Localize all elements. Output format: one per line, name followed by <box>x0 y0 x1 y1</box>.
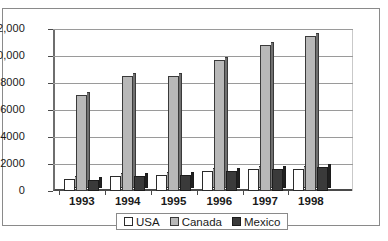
y-axis-tick-mark <box>48 164 53 165</box>
y-axis-tick-label: 8000 <box>0 76 25 88</box>
bar-front-face <box>293 169 304 191</box>
bar-side-face <box>316 33 319 188</box>
bar-front-face <box>248 169 259 191</box>
bar-side-face <box>133 73 136 188</box>
bar-front-face <box>64 179 75 191</box>
x-axis-tick-mark <box>243 191 244 195</box>
bar-side-face <box>225 57 228 188</box>
legend-item-usa[interactable]: USA <box>124 216 160 228</box>
legend-label: Canada <box>182 216 222 228</box>
bar-front-face <box>122 76 133 191</box>
x-axis-tick-mark <box>59 191 60 195</box>
mexico-swatch-icon <box>232 217 241 226</box>
y-axis-tick-mark <box>48 56 53 57</box>
x-axis-tick-label: 1996 <box>196 195 243 207</box>
bar-front-face <box>214 60 225 191</box>
bar-front-face <box>180 175 191 191</box>
y-axis-tick-mark <box>48 29 53 30</box>
legend-item-canada[interactable]: Canada <box>170 216 222 228</box>
y-axis-tick-mark <box>48 137 53 138</box>
x-axis-tick-label: 1995 <box>150 195 197 207</box>
bar-mexico-1995 <box>180 175 191 191</box>
bar-front-face <box>156 175 167 191</box>
y-axis-tick-mark <box>48 110 53 111</box>
bar-front-face <box>76 95 87 191</box>
bar-side-face <box>237 168 240 188</box>
bar-side-face <box>145 173 148 188</box>
y-axis-tick-mark <box>48 191 53 192</box>
chart-frame: 0200040006000800010,00012,000 1993199419… <box>2 8 380 226</box>
y-axis-tick-label: 6000 <box>0 103 25 115</box>
bar-cluster <box>156 29 191 191</box>
bar-canada-1994 <box>122 76 133 191</box>
bar-side-face <box>99 177 102 188</box>
x-axis-tick-label: 1998 <box>287 195 334 207</box>
bar-cluster <box>110 29 145 191</box>
bar-front-face <box>305 36 316 191</box>
bar-usa-1993 <box>64 179 75 191</box>
y-axis-tick-label: 2000 <box>0 157 25 169</box>
chart-legend: USACanadaMexico <box>116 213 288 230</box>
bar-mexico-1996 <box>226 171 237 191</box>
bar-front-face <box>317 167 328 191</box>
bar-front-face <box>260 45 271 191</box>
bar-canada-1995 <box>168 76 179 191</box>
bar-cluster <box>202 29 237 191</box>
bar-mexico-1993 <box>88 180 99 191</box>
y-axis-tick-label: 4000 <box>0 130 25 142</box>
canada-swatch-icon <box>170 217 179 226</box>
bar-front-face <box>202 171 213 191</box>
bar-cluster <box>64 29 99 191</box>
bar-canada-1993 <box>76 95 87 191</box>
bar-front-face <box>272 169 283 191</box>
y-axis-tick-mark <box>48 83 53 84</box>
y-axis-tick-label: 12,000 <box>0 22 25 34</box>
bar-front-face <box>88 180 99 191</box>
bar-usa-1995 <box>156 175 167 191</box>
bar-cluster <box>248 29 283 191</box>
plot-area <box>53 29 353 191</box>
x-axis-tick-mark <box>151 191 152 195</box>
bar-side-face <box>87 92 90 188</box>
bar-chart: 0200040006000800010,00012,000 1993199419… <box>0 0 388 241</box>
y-axis-tick-label: 10,000 <box>0 49 25 61</box>
bar-front-face <box>134 176 145 191</box>
bar-front-face <box>168 76 179 191</box>
bar-side-face <box>328 164 331 188</box>
bar-side-face <box>191 172 194 188</box>
x-axis-tick-label: 1993 <box>58 195 105 207</box>
usa-swatch-icon <box>124 217 133 226</box>
x-axis-tick-label: 1994 <box>104 195 151 207</box>
bar-usa-1994 <box>110 176 121 191</box>
bar-canada-1996 <box>214 60 225 191</box>
bar-side-face <box>271 42 274 188</box>
bar-usa-1998 <box>293 169 304 191</box>
bar-front-face <box>110 176 121 191</box>
bar-side-face <box>283 166 286 188</box>
x-axis-tick-mark <box>105 191 106 195</box>
legend-label: USA <box>136 216 160 228</box>
bar-front-face <box>226 171 237 191</box>
bar-mexico-1994 <box>134 176 145 191</box>
x-axis-tick-mark <box>288 191 289 195</box>
legend-label: Mexico <box>244 216 280 228</box>
bar-side-face <box>179 73 182 188</box>
bar-canada-1997 <box>260 45 271 191</box>
x-axis-tick-label: 1997 <box>242 195 289 207</box>
x-axis-tick-mark <box>197 191 198 195</box>
bar-cluster <box>293 29 328 191</box>
bar-usa-1996 <box>202 171 213 191</box>
y-axis-tick-label: 0 <box>0 184 25 196</box>
bar-canada-1998 <box>305 36 316 191</box>
bar-mexico-1998 <box>317 167 328 191</box>
bar-mexico-1997 <box>272 169 283 191</box>
legend-item-mexico[interactable]: Mexico <box>232 216 280 228</box>
bar-usa-1997 <box>248 169 259 191</box>
